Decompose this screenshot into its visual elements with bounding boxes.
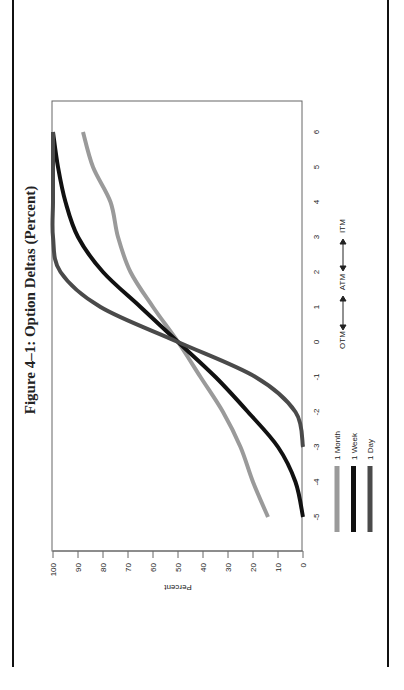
legend-label: 1 Week [350,432,359,460]
percent-tick-label: 100 [49,562,58,576]
legend-swatch [351,466,356,532]
x-tick-label: -4 [312,478,321,486]
x-tick-label: 0 [312,339,321,344]
x-tick-label: -2 [312,408,321,416]
series-line-1-month [83,132,268,517]
x-tick-label: 6 [312,129,321,134]
percent-tick-label: 90 [74,562,83,571]
x-tick-label: 5 [312,164,321,169]
percent-tick-label: 10 [274,562,283,571]
series-line-1-week [53,132,303,517]
percent-tick-label: 80 [99,562,108,571]
legend-swatch [368,466,373,532]
legend-label: 1 Month [333,431,342,460]
x-tick-label: -3 [312,443,321,451]
double-arrow-icon [340,239,346,271]
moneyness-annotation: OTM ATM ITM [338,219,347,349]
chart-title: Figure 4–1: Option Deltas (Percent) [22,186,39,415]
percent-tick-label: 0 [299,562,308,567]
x-tick-label: 1 [312,304,321,309]
x-tick-label: -1 [312,373,321,381]
legend-swatch [335,466,340,532]
percent-tick-label: 70 [124,562,133,571]
percent-tick-label: 30 [224,562,233,571]
percent-tick-label: 50 [174,562,183,571]
series-lines [52,132,303,517]
x-tick-label: 3 [312,234,321,239]
legend-label: 1 Day [366,439,375,460]
double-arrow-icon [340,296,346,330]
x-tick-label: 2 [312,269,321,274]
otm-label: OTM [338,331,347,349]
x-tick-label: 4 [312,199,321,204]
percent-axis-label: Percent [163,583,191,592]
option-deltas-chart: Figure 4–1: Option Deltas (Percent) 1009… [0,0,404,690]
legend: 1 Month1 Week1 Day [333,431,375,532]
series-line-1-day [52,132,303,447]
percent-tick-label: 40 [199,562,208,571]
moneyness-axis: -5-4-3-2-10123456 [312,129,321,520]
atm-label: ATM [338,274,347,291]
x-tick-label: -5 [312,513,321,521]
plot-frame [52,101,302,551]
percent-axis: 1009080706050403020100 [49,551,308,576]
percent-tick-label: 20 [249,562,258,571]
percent-tick-label: 60 [149,562,158,571]
itm-label: ITM [338,219,347,233]
